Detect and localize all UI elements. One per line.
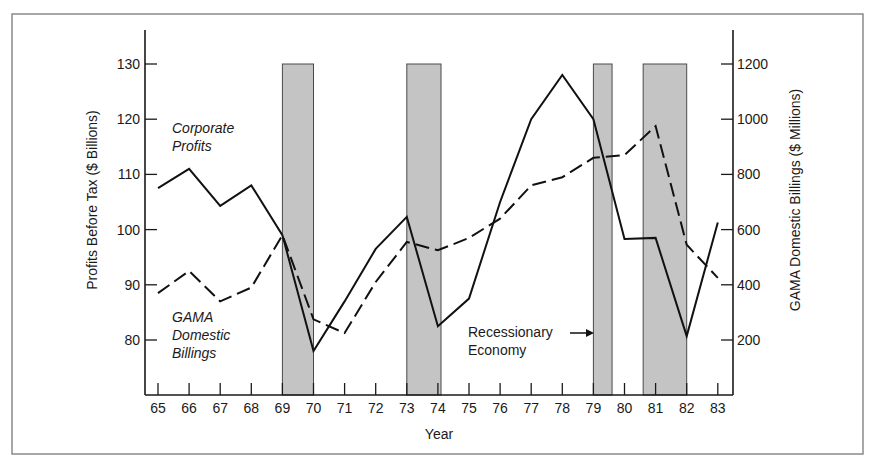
y2-tick-label: 800 bbox=[737, 166, 761, 182]
y-tick-label: 120 bbox=[117, 111, 141, 127]
arrow-head-icon bbox=[586, 329, 594, 337]
x-tick-label: 71 bbox=[337, 400, 353, 416]
y-tick-label: 110 bbox=[118, 166, 141, 182]
y2-tick-label: 1000 bbox=[737, 111, 768, 127]
corporate-profits-annotation: Corporate Profits bbox=[172, 120, 234, 154]
x-tick-label: 65 bbox=[150, 400, 166, 416]
y2-tick-label: 1200 bbox=[737, 56, 768, 72]
right-y-axis-title: GAMA Domestic Billings ($ Millions) bbox=[787, 89, 803, 312]
profits-vs-billings-chart: 65666768697071727374757677787980818283 8… bbox=[0, 0, 882, 473]
x-tick-label: 68 bbox=[244, 400, 260, 416]
x-tick-label: 83 bbox=[710, 400, 726, 416]
x-tick-label: 67 bbox=[212, 400, 228, 416]
y-tick-label: 80 bbox=[124, 332, 140, 348]
x-tick-label: 81 bbox=[648, 400, 664, 416]
left-y-axis-title: Profits Before Tax ($ Billions) bbox=[84, 110, 100, 289]
x-tick-label: 74 bbox=[430, 400, 446, 416]
annotation-text: GAMA bbox=[172, 309, 213, 325]
x-tick-label: 80 bbox=[617, 400, 633, 416]
x-tick-label: 66 bbox=[181, 400, 197, 416]
x-tick-label: 76 bbox=[492, 400, 508, 416]
gama-billings-annotation: GAMA Domestic Billings bbox=[172, 309, 230, 361]
x-tick-label: 75 bbox=[461, 400, 477, 416]
x-tick-label: 70 bbox=[306, 400, 322, 416]
x-tick-label: 79 bbox=[586, 400, 602, 416]
recessionary-economy-annotation: Recessionary Economy bbox=[468, 324, 594, 358]
annotation-text: Domestic bbox=[172, 327, 230, 343]
annotation-text: Economy bbox=[468, 342, 526, 358]
annotation-text: Billings bbox=[172, 345, 216, 361]
y2-tick-label: 400 bbox=[737, 277, 761, 293]
recession-bar bbox=[282, 64, 313, 395]
left-y-axis-ticks: 8090100110120130 bbox=[117, 56, 157, 348]
recession-bar bbox=[407, 64, 441, 395]
x-tick-label: 69 bbox=[275, 400, 291, 416]
recession-bar bbox=[593, 64, 612, 395]
x-tick-label: 78 bbox=[555, 400, 571, 416]
annotation-text: Corporate bbox=[172, 120, 234, 136]
annotation-text: Profits bbox=[172, 138, 212, 154]
y-tick-label: 90 bbox=[124, 277, 140, 293]
right-y-axis-ticks: 20040060080010001200 bbox=[721, 56, 768, 348]
x-tick-label: 82 bbox=[679, 400, 695, 416]
y-tick-label: 130 bbox=[117, 56, 141, 72]
x-axis-ticks: 65666768697071727374757677787980818283 bbox=[150, 383, 726, 416]
x-axis-title: Year bbox=[425, 426, 454, 442]
y2-tick-label: 600 bbox=[737, 222, 761, 238]
recession-bar bbox=[643, 64, 687, 395]
x-tick-label: 73 bbox=[399, 400, 415, 416]
x-tick-label: 77 bbox=[523, 400, 539, 416]
y-tick-label: 100 bbox=[117, 222, 141, 238]
y2-tick-label: 200 bbox=[737, 332, 761, 348]
x-tick-label: 72 bbox=[368, 400, 384, 416]
annotation-text: Recessionary bbox=[468, 324, 553, 340]
